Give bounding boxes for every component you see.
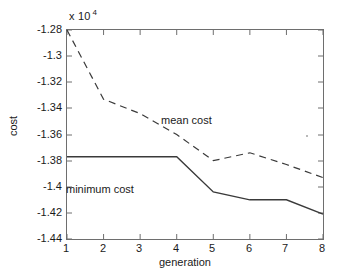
plot-svg bbox=[67, 30, 323, 239]
y-tick-label: -1.28 bbox=[16, 24, 62, 35]
annotation-mean-cost: mean cost bbox=[161, 114, 212, 126]
scan-artifact-speck bbox=[306, 135, 308, 137]
x-tick-label: 7 bbox=[273, 242, 297, 254]
y-tick-label: -1.3 bbox=[16, 50, 62, 61]
y-tick-label: -1.4 bbox=[16, 181, 62, 192]
y-axis-tick-labels: -1.28 -1.3 -1.32 -1.34 -1.36 -1.38 -1.4 … bbox=[12, 0, 62, 276]
x-tick-label: 4 bbox=[164, 242, 188, 254]
y-tick-label: -1.34 bbox=[16, 102, 62, 113]
x-tick-label: 8 bbox=[310, 242, 334, 254]
x-tick-label: 1 bbox=[54, 242, 78, 254]
y-tick-label: -1.36 bbox=[16, 129, 62, 140]
y-tick-label: -1.38 bbox=[16, 155, 62, 166]
plot-area bbox=[66, 29, 324, 240]
x-tick-label: 5 bbox=[200, 242, 224, 254]
y-tick-label: -1.42 bbox=[16, 207, 62, 218]
y-tick-label: -1.32 bbox=[16, 76, 62, 87]
series-line-mean-cost bbox=[67, 30, 323, 178]
y-axis-multiplier-exponent: 4 bbox=[93, 8, 98, 17]
annotation-minimum-cost: minimum cost bbox=[66, 183, 134, 195]
x-tick-label: 3 bbox=[127, 242, 151, 254]
x-axis-ticks bbox=[67, 30, 323, 239]
y-axis-multiplier-base: x 10 bbox=[69, 10, 91, 22]
y-axis-ticks bbox=[67, 30, 323, 239]
x-tick-label: 2 bbox=[91, 242, 115, 254]
y-axis-title: cost bbox=[7, 96, 19, 156]
x-tick-label: 6 bbox=[237, 242, 261, 254]
y-axis-multiplier: x 104 bbox=[69, 8, 97, 22]
chart-screenshot: x 104 -1.28 -1.3 -1.32 -1.34 -1.36 -1.38… bbox=[0, 0, 342, 276]
x-axis-title: generation bbox=[0, 256, 342, 268]
